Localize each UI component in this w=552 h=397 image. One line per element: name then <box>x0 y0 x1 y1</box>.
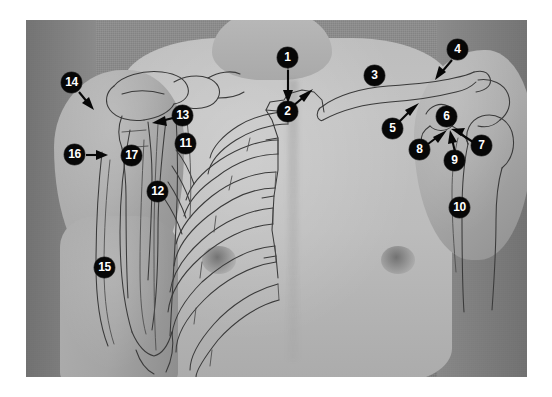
callout-6[interactable]: 6 <box>436 106 457 127</box>
anatomy-figure: 1 2 3 4 5 6 7 8 9 10 11 12 13 14 15 16 1… <box>0 0 552 397</box>
callout-7[interactable]: 7 <box>471 135 492 156</box>
callout-13[interactable]: 13 <box>172 105 193 126</box>
callout-12[interactable]: 12 <box>147 181 168 202</box>
callout-4[interactable]: 4 <box>447 39 468 60</box>
callout-5[interactable]: 5 <box>382 118 403 139</box>
callout-8[interactable]: 8 <box>409 139 430 160</box>
brachial-artery-line <box>154 124 158 350</box>
callout-16[interactable]: 16 <box>64 144 85 165</box>
callout-17[interactable]: 17 <box>121 145 142 166</box>
callout-11[interactable]: 11 <box>175 133 196 154</box>
callout-1[interactable]: 1 <box>277 47 298 68</box>
left-arm-bone-outline <box>107 72 244 298</box>
callout-9[interactable]: 9 <box>444 150 465 171</box>
callout-2[interactable]: 2 <box>277 101 298 122</box>
sternum-outline <box>262 53 324 278</box>
callout-14[interactable]: 14 <box>61 72 82 93</box>
callout-15[interactable]: 15 <box>94 257 115 278</box>
clavicle-outline <box>317 71 490 120</box>
callout-3[interactable]: 3 <box>364 65 385 86</box>
callout-10[interactable]: 10 <box>449 197 470 218</box>
